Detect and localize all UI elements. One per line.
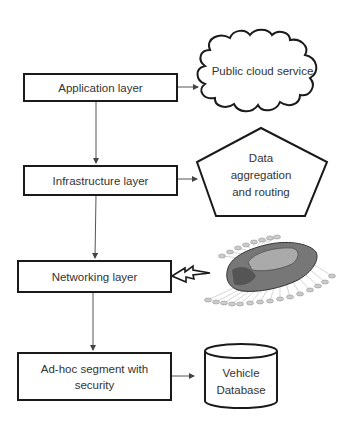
infrastructure-layer-box: Infrastructure layer	[23, 165, 178, 196]
car-sensor-icon	[205, 235, 336, 306]
arrow-infra-to-net	[95, 195, 96, 258]
infrastructure-layer-label: Infrastructure layer	[53, 173, 149, 189]
pentagon-label-line-1: Data	[215, 150, 307, 167]
wireless-lightning-icon	[172, 266, 210, 282]
database-label-line-1: Vehicle	[205, 365, 277, 382]
database-label: Vehicle Database	[205, 365, 277, 399]
database-label-line-2: Database	[205, 382, 277, 399]
adhoc-segment-label: Ad-hoc segment with security	[39, 361, 150, 393]
pentagon-label-line-3: and routing	[215, 184, 307, 201]
networking-layer-label: Networking layer	[52, 269, 138, 285]
networking-layer-box: Networking layer	[17, 260, 172, 293]
adhoc-segment-box: Ad-hoc segment with security	[17, 352, 172, 401]
application-layer-box: Application layer	[23, 73, 178, 102]
pentagon-label: Data aggregation and routing	[215, 150, 307, 201]
pentagon-label-line-2: aggregation	[215, 167, 307, 184]
cloud-label: Public cloud service	[200, 63, 325, 80]
application-layer-label: Application layer	[58, 80, 142, 96]
